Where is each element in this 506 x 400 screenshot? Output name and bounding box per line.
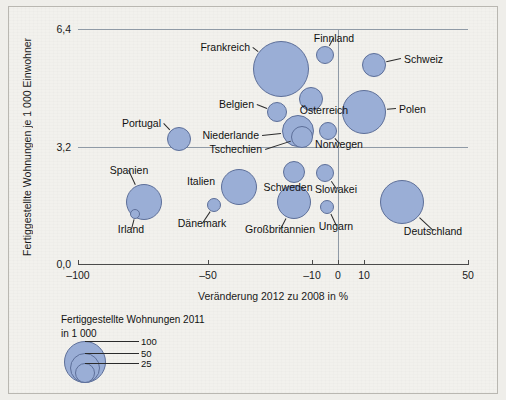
y-tick-label: 6,4 (56, 23, 71, 35)
size-legend: Fertiggestellte Wohnungen 2011 in 1 000 … (61, 313, 261, 383)
data-label-schweiz: Schweiz (404, 54, 443, 65)
bubble-ungarn (320, 200, 334, 214)
bubble-irland (130, 209, 140, 219)
bubble-polen (342, 90, 386, 134)
size-legend-value-25: 25 (141, 358, 152, 369)
bubble-italien (221, 169, 257, 205)
data-label-deutschland: Deutschland (404, 226, 462, 237)
x-tick-label: –50 (199, 269, 217, 281)
x-tick (338, 260, 339, 265)
x-tick-label: –100 (66, 269, 89, 281)
x-tick (468, 260, 469, 265)
size-legend-circle-25 (75, 363, 95, 383)
bubble-tschechien (291, 126, 313, 148)
x-tick (78, 260, 79, 265)
x-tick-label: 10 (358, 269, 370, 281)
data-label-italien: Italien (187, 176, 215, 187)
data-label-finnland: Finnland (314, 33, 354, 44)
x-axis-title: Veränderung 2012 zu 2008 in % (78, 290, 468, 302)
data-label-polen: Polen (399, 104, 426, 115)
x-tick-label: –10 (303, 269, 321, 281)
size-legend-value-100: 100 (141, 336, 157, 347)
size-legend-title-line1: Fertiggestellte Wohnungen 2011 (61, 314, 205, 325)
bubble-frankreich (253, 41, 309, 97)
x-tick (364, 260, 365, 265)
y-tick-label: 3,2 (56, 141, 71, 153)
bubble-danemark (207, 198, 221, 212)
bubble-belgien (267, 102, 287, 122)
data-label-norwegen: Norwegen (315, 139, 363, 150)
data-label-osterreich: Österreich (300, 105, 348, 116)
data-label-belgien: Belgien (219, 99, 254, 110)
data-label-frankreich: Frankreich (200, 42, 250, 53)
size-legend-title: Fertiggestellte Wohnungen 2011 in 1 000 (61, 313, 261, 340)
y-gridline (78, 264, 468, 265)
x-tick (312, 260, 313, 265)
data-label-ungarn: Ungarn (319, 221, 353, 232)
size-legend-leader (85, 353, 139, 354)
size-legend-leader (85, 363, 139, 364)
data-label-tschechien: Tschechien (209, 144, 262, 155)
chart-figure: Fertiggestellte Wohnungen je 1 000 Einwo… (8, 6, 498, 394)
size-legend-leader (85, 341, 139, 342)
x-tick (208, 260, 209, 265)
y-gridline (78, 29, 468, 30)
data-label-slowakei: Slowakei (315, 184, 357, 195)
x-tick-label: 50 (462, 269, 474, 281)
bubble-schweden (283, 161, 305, 183)
data-label-schweden: Schweden (263, 182, 312, 193)
size-legend-title-line2: in 1 000 (61, 328, 97, 339)
data-label-niederlande: Niederlande (202, 130, 259, 141)
data-label-portugal: Portugal (122, 118, 161, 129)
y-axis-title: Fertiggestellte Wohnungen je 1 000 Einwo… (19, 29, 35, 264)
bubble-schweiz (362, 53, 386, 77)
bubble-deutschland (380, 180, 424, 224)
x-tick-label: 0 (335, 269, 341, 281)
bubble-slowakei (316, 164, 334, 182)
bubble-portugal (167, 127, 191, 151)
bubble-finnland (316, 46, 334, 64)
